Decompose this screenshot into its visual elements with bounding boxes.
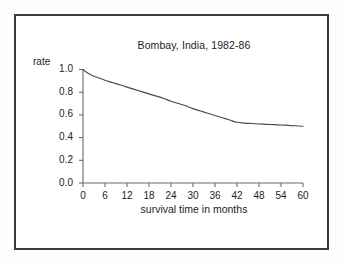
axis-lines <box>83 69 303 183</box>
x-tick-label: 36 <box>203 190 227 201</box>
y-tick-label: 0.2 <box>43 154 73 165</box>
x-tick-label: 24 <box>159 190 183 201</box>
y-tick-label: 0.4 <box>43 131 73 142</box>
y-axis-ticks <box>79 70 83 184</box>
x-tick-label: 48 <box>247 190 271 201</box>
x-tick-label: 42 <box>225 190 249 201</box>
x-tick-label: 54 <box>269 190 293 201</box>
x-tick-label: 18 <box>137 190 161 201</box>
x-tick-label: 30 <box>181 190 205 201</box>
x-tick-label: 0 <box>71 190 95 201</box>
y-tick-label: 0.8 <box>43 86 73 97</box>
figure-canvas: Bombay, India, 1982-86 rate 0.00.20.40.6… <box>0 0 345 266</box>
x-axis-label: survival time in months <box>83 203 305 215</box>
x-tick-label: 12 <box>115 190 139 201</box>
y-tick-label: 0.0 <box>43 177 73 188</box>
x-tick-label: 6 <box>93 190 117 201</box>
survival-curve <box>83 70 303 127</box>
x-tick-label: 60 <box>291 190 315 201</box>
x-axis-ticks <box>83 183 303 187</box>
y-tick-label: 1.0 <box>43 63 73 74</box>
y-tick-label: 0.6 <box>43 108 73 119</box>
